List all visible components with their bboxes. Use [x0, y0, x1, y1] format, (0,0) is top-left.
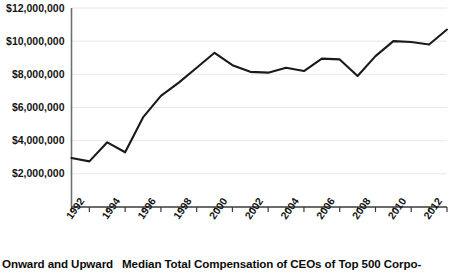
caption-lead: Onward and Upward [0, 257, 113, 270]
x-axis-tick-label: 2006 [314, 195, 337, 221]
x-axis-tick-label: 2004 [278, 195, 301, 221]
x-axis-tick-label: 1992 [63, 195, 86, 221]
figure-caption: Onward and UpwardMedian Total Compensati… [0, 257, 453, 277]
line-chart: $2,000,000$4,000,000$6,000,000$8,000,000… [0, 0, 453, 255]
y-axis-tick-label: $8,000,000 [12, 68, 65, 80]
x-axis-tick-label: 2002 [242, 195, 265, 221]
x-axis-tick-label: 2010 [385, 195, 408, 221]
figure: $2,000,000$4,000,000$6,000,000$8,000,000… [0, 0, 453, 277]
data-series-line [72, 30, 448, 162]
y-axis-tick-labels: $2,000,000$4,000,000$6,000,000$8,000,000… [6, 2, 65, 180]
y-axis-tick-label: $6,000,000 [12, 101, 65, 113]
caption-body: Median Total Compensation of CEOs of Top… [113, 257, 421, 270]
x-axis-tick-label: 1994 [99, 195, 122, 221]
y-axis-tick-label: $4,000,000 [12, 134, 65, 146]
x-axis-tick-label: 2012 [421, 195, 444, 221]
x-axis-tick-labels: 1992199419961998200020022004200620082010… [63, 195, 444, 221]
y-axis-tick-label: $12,000,000 [6, 2, 65, 14]
x-axis-tick-label: 2008 [349, 195, 372, 221]
y-axis-tick-label: $10,000,000 [6, 35, 65, 47]
chart-container: $2,000,000$4,000,000$6,000,000$8,000,000… [0, 0, 453, 255]
y-axis-tick-label: $2,000,000 [12, 167, 65, 179]
x-axis-tick-label: 1996 [135, 195, 158, 221]
x-axis-tick-label: 2000 [206, 195, 229, 221]
x-axis-tick-label: 1998 [171, 195, 194, 221]
